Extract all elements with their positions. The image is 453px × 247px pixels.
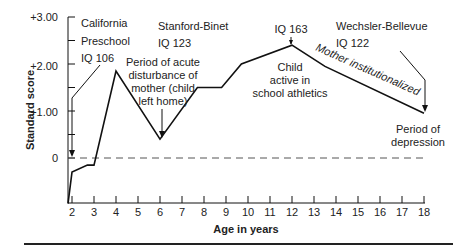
california-leader-line — [72, 65, 100, 98]
svg-text:IQ 163: IQ 163 — [274, 23, 307, 35]
svg-text:depression: depression — [391, 136, 445, 148]
x-ticks: 23456789101112131415161718 — [69, 196, 430, 218]
y-tick-label-0: 0 — [52, 152, 58, 164]
x-tick-label: 4 — [113, 206, 119, 218]
x-tick-label: 7 — [179, 206, 185, 218]
svg-text:disturbance of: disturbance of — [128, 69, 198, 81]
x-tick-label: 5 — [135, 206, 141, 218]
x-tick-label: 16 — [374, 206, 386, 218]
y-tick-label-3: +3.00 — [30, 11, 58, 23]
arrow-down-icon — [422, 105, 428, 112]
svg-text:Period of acute: Period of acute — [126, 56, 200, 68]
svg-text:Preschool: Preschool — [81, 35, 130, 47]
x-tick-label: 2 — [69, 206, 75, 218]
svg-text:Child: Child — [277, 61, 302, 73]
chart-figure: 23456789101112131415161718 +3.00 +2.00 +… — [0, 0, 453, 247]
x-tick-label: 3 — [91, 206, 97, 218]
svg-text:IQ 106: IQ 106 — [81, 52, 114, 64]
annotation-iq163: IQ 163 — [274, 23, 307, 45]
x-tick-label: 8 — [201, 206, 207, 218]
y-axis-title: Standard score — [24, 70, 36, 150]
x-tick-label: 15 — [352, 206, 364, 218]
annotation-period-of-depression: Period of depression — [391, 123, 445, 148]
x-tick-label: 12 — [286, 206, 298, 218]
arrow-down-icon — [69, 150, 75, 157]
svg-text:left home): left home) — [139, 95, 188, 107]
x-axis-title: Age in years — [213, 223, 278, 235]
annotation-acute-disturbance: Period of acute disturbance of mother (c… — [126, 56, 200, 138]
svg-text:Stanford-Binet: Stanford-Binet — [158, 20, 228, 32]
annotation-stanford-binet: Stanford-Binet IQ 123 — [158, 20, 228, 49]
x-tick-label: 13 — [308, 206, 320, 218]
x-tick-label: 18 — [418, 206, 430, 218]
x-tick-label: 17 — [396, 206, 408, 218]
annotation-child-athletics: Child active in school athletics — [252, 61, 328, 99]
svg-text:IQ 122: IQ 122 — [336, 37, 369, 49]
arrow-down-icon — [289, 40, 293, 45]
x-tick-label: 10 — [242, 206, 254, 218]
x-tick-label: 9 — [223, 206, 229, 218]
svg-text:school athletics: school athletics — [252, 87, 328, 99]
svg-text:California: California — [81, 17, 128, 29]
svg-text:Wechsler-Bellevue: Wechsler-Bellevue — [336, 20, 428, 32]
annotation-california: California Preschool IQ 106 — [69, 17, 130, 157]
svg-text:mother (child: mother (child — [131, 82, 195, 94]
x-tick-label: 6 — [157, 206, 163, 218]
bottom-rule — [24, 243, 453, 245]
svg-text:active in: active in — [270, 74, 310, 86]
svg-text:IQ 123: IQ 123 — [158, 37, 191, 49]
x-tick-label: 14 — [330, 206, 342, 218]
x-tick-label: 11 — [264, 206, 275, 218]
svg-text:Period of: Period of — [396, 123, 441, 135]
wechsler-leader-line — [400, 51, 425, 80]
